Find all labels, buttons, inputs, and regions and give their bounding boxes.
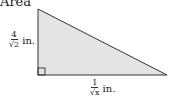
height-unit: in.	[22, 35, 35, 46]
height-denominator: √2	[9, 40, 19, 49]
right-triangle-figure	[0, 0, 172, 102]
height-label: 4 √2 in.	[9, 31, 35, 49]
base-unit: in.	[103, 83, 116, 94]
right-triangle	[38, 9, 167, 75]
base-label: 1 √x in.	[90, 79, 115, 97]
base-numerator: 1	[91, 79, 98, 88]
base-denominator: √x	[90, 88, 100, 97]
height-numerator: 4	[11, 31, 18, 40]
